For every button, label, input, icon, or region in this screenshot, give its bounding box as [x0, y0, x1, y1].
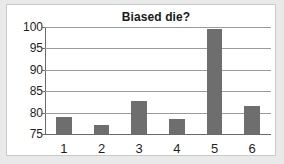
bar	[56, 117, 72, 134]
y-tick-label: 95	[13, 41, 43, 55]
y-tick-label: 80	[13, 106, 43, 120]
y-tick-label: 90	[13, 63, 43, 77]
x-axis-labels: 123456	[45, 136, 271, 156]
bar	[244, 106, 260, 134]
x-tick-label: 3	[136, 141, 143, 156]
y-tick-mark	[42, 91, 45, 92]
chart-frame: Biased die? 7580859095100 123456	[6, 4, 276, 156]
y-tick-mark	[42, 113, 45, 114]
y-tick-mark	[42, 134, 45, 135]
x-tick-label: 5	[211, 141, 218, 156]
y-tick-label: 75	[13, 127, 43, 141]
y-tick-mark	[42, 48, 45, 49]
x-tick-label: 6	[249, 141, 256, 156]
x-tick-label: 1	[60, 141, 67, 156]
y-tick-mark	[42, 27, 45, 28]
x-tick-label: 4	[173, 141, 180, 156]
x-tick-label: 2	[98, 141, 105, 156]
gridline	[45, 27, 271, 28]
gridline	[45, 48, 271, 49]
plot-area	[45, 27, 271, 135]
bar	[207, 29, 223, 134]
gridline	[45, 70, 271, 71]
bar	[169, 119, 185, 134]
x-axis-line	[45, 134, 271, 135]
y-tick-mark	[42, 70, 45, 71]
gridline	[45, 91, 271, 92]
bar	[94, 125, 110, 134]
gridline	[45, 113, 271, 114]
bar	[131, 101, 147, 134]
y-tick-label: 85	[13, 84, 43, 98]
y-tick-label: 100	[13, 20, 43, 34]
chart-title: Biased die?	[37, 9, 275, 25]
y-axis-line	[45, 27, 46, 135]
y-axis-labels: 7580859095100	[9, 27, 43, 135]
